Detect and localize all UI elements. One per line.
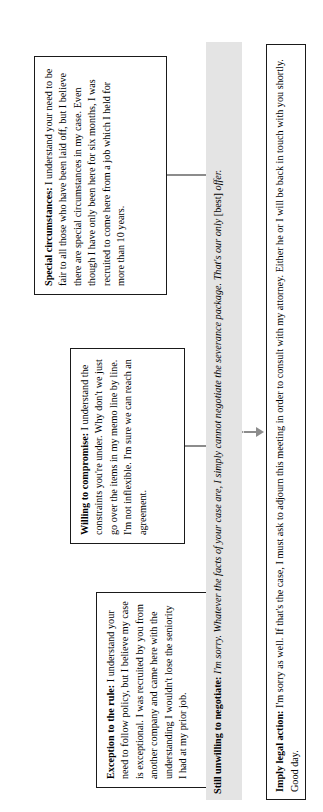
node-special-lead: Special circumstances: xyxy=(43,187,54,286)
node-special-body: I understand your need to be fair to all… xyxy=(43,69,126,286)
node-special-circumstances: Special circumstances: I understand your… xyxy=(34,56,167,295)
node-still-unwilling-to-negotiate: Still unwilling to negotiate: I'm sorry.… xyxy=(206,42,242,800)
node-legal-body: I'm sorry as well. If that's the case, I… xyxy=(274,59,300,792)
node-exception-to-the-rule: Exception to the rule: I understand your… xyxy=(96,592,208,788)
node-willing-to-compromise: Willing to compromise: I understand the … xyxy=(70,348,185,544)
arrow-to-legal-icon xyxy=(256,427,264,437)
node-exception-body: I understand your need to follow policy,… xyxy=(105,601,188,779)
node-exception-lead: Exception to the rule: xyxy=(105,685,116,779)
node-unwilling-italic: I'm sorry. Whatever the facts of your ca… xyxy=(212,219,223,677)
node-unwilling-bracket: [best] xyxy=(212,190,223,218)
node-unwilling-lead: Still unwilling to negotiate: xyxy=(212,677,223,794)
node-legal-lead: Imply legal action: xyxy=(274,711,285,793)
node-compromise-lead: Willing to compromise: xyxy=(79,433,90,535)
node-unwilling-italic-end: offer. xyxy=(212,170,223,191)
diagram-rotation-wrapper: Exception to the rule: I understand your… xyxy=(0,0,323,812)
flowchart-canvas: Exception to the rule: I understand your… xyxy=(0,0,323,812)
node-imply-legal-action: Imply legal action: I'm sorry as well. I… xyxy=(266,44,306,800)
